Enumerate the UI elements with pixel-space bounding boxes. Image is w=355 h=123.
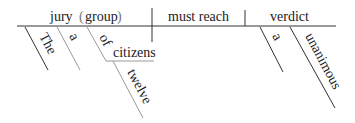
verb-word: must reach xyxy=(168,9,229,24)
object-word: verdict xyxy=(270,9,309,24)
modifier-a: a xyxy=(66,30,83,43)
modifier-the: The xyxy=(36,30,59,56)
subject-note: group xyxy=(85,9,118,24)
modifier-twelve: twelve xyxy=(124,66,155,106)
object-modifier-a: a xyxy=(269,30,286,43)
subject-note-close: ) xyxy=(117,9,122,25)
subject-word: jury xyxy=(49,9,73,24)
sentence-diagram: jury ( group ) must reach verdict The a … xyxy=(0,0,355,123)
subject-note-open: ( xyxy=(79,9,84,25)
preposition-object: citizens xyxy=(113,45,156,60)
